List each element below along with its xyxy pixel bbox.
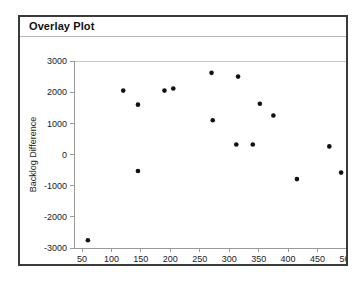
- overlay-plot-report-frame: Overlay Plot 3000200010000-1000-2000-300…: [18, 15, 348, 266]
- data-point: [171, 86, 176, 91]
- x-tick-label: 50: [77, 254, 87, 264]
- x-tick-label: 200: [163, 254, 178, 264]
- x-axis: 50100150200250300350400450500: [74, 248, 346, 264]
- x-tick-label: 300: [222, 254, 237, 264]
- y-axis-title: Backlog Difference: [28, 117, 38, 192]
- x-tick-label: 100: [104, 254, 119, 264]
- data-point: [271, 113, 276, 118]
- data-point: [210, 118, 215, 123]
- data-point: [250, 142, 255, 147]
- x-tick-label: 500: [339, 254, 346, 264]
- data-point: [209, 71, 214, 76]
- data-point: [339, 170, 344, 175]
- data-point: [295, 177, 300, 182]
- x-tick-label: 450: [310, 254, 325, 264]
- y-axis: 3000200010000-1000-2000-3000: [44, 56, 74, 253]
- data-point: [121, 88, 126, 93]
- scatter-plot-svg: 3000200010000-1000-2000-3000 50100150200…: [20, 37, 346, 266]
- y-tick-label: -1000: [44, 181, 67, 191]
- data-point: [327, 144, 332, 149]
- plot-border: [74, 61, 346, 248]
- x-tick-label: 350: [251, 254, 266, 264]
- x-tick-label: 150: [133, 254, 148, 264]
- y-tick-label: 1000: [47, 119, 67, 129]
- data-point: [136, 102, 141, 107]
- y-tick-label: 3000: [47, 56, 67, 66]
- x-tick-label: 400: [281, 254, 296, 264]
- page-title: Overlay Plot: [29, 20, 94, 32]
- x-tick-label: 250: [192, 254, 207, 264]
- data-point: [136, 169, 141, 174]
- data-points-layer: [86, 71, 344, 243]
- data-point: [236, 74, 241, 79]
- data-point: [234, 142, 239, 147]
- data-point: [258, 101, 263, 106]
- y-tick-label: -3000: [44, 243, 67, 253]
- y-tick-label: 0: [62, 150, 67, 160]
- data-point: [162, 88, 167, 93]
- y-tick-label: -2000: [44, 212, 67, 222]
- plot-frame: [74, 61, 346, 248]
- scatter-chart-area: 3000200010000-1000-2000-3000 50100150200…: [20, 37, 346, 264]
- plot-title-band: Overlay Plot: [20, 17, 346, 37]
- y-tick-label: 2000: [47, 87, 67, 97]
- data-point: [86, 238, 91, 243]
